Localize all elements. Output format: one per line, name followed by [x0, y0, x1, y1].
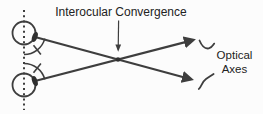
convergence-point-dot: [116, 57, 121, 62]
interocular-convergence-diagram: Interocular Convergence Optical Axes: [0, 0, 263, 114]
diagram-canvas: Interocular Convergence Optical Axes: [0, 0, 263, 114]
title-label: Interocular Convergence: [55, 5, 187, 19]
optical-axis-from-top-eye: [35, 37, 191, 79]
leader-squiggle-bottom-icon: [199, 74, 214, 89]
optical-axis-from-bottom-eye: [35, 40, 193, 81]
optical-axes-label-line1: Optical: [217, 49, 253, 61]
eye-top: [13, 22, 36, 45]
leader-squiggle-top-icon: [200, 41, 215, 49]
eye-bottom: [13, 74, 36, 97]
optical-axes-label-line2: Axes: [222, 63, 248, 75]
